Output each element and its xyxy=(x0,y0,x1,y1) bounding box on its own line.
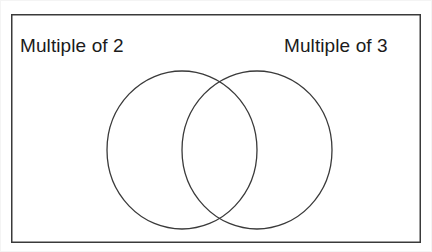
venn-diagram-figure: Multiple of 2 Multiple of 3 xyxy=(0,0,432,252)
set-label-right: Multiple of 3 xyxy=(284,36,388,55)
set-label-left: Multiple of 2 xyxy=(20,36,124,55)
